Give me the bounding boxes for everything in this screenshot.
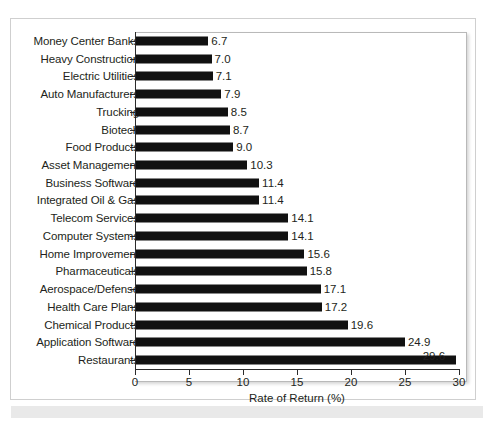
bar-row: Chemical Products19.6 <box>11 316 477 334</box>
bar <box>136 338 405 347</box>
category-label: Health Care Plans <box>47 301 139 313</box>
category-label: Computer Systems <box>43 230 139 242</box>
bar-value-label: 6.7 <box>211 35 227 47</box>
bar-value-label: 10.3 <box>250 159 272 171</box>
category-label: Asset Management <box>42 159 139 171</box>
bar-value-label: 11.4 <box>262 177 284 189</box>
bar <box>136 36 208 45</box>
bar-value-label: 29.6 <box>423 350 445 362</box>
bar-row: Trucking8.5 <box>11 103 477 121</box>
bar-row: Asset Management10.3 <box>11 156 477 174</box>
bar-value-label: 15.6 <box>307 248 329 260</box>
category-label: Biotech <box>101 124 139 136</box>
category-label: Home Improvement <box>40 248 139 260</box>
x-axis-tick <box>459 370 460 375</box>
bar-chart: Money Center Banks6.7Heavy Construction7… <box>11 19 477 401</box>
bar-value-label: 7.1 <box>216 70 232 82</box>
bar-row: Restaurants29.6 <box>11 351 477 369</box>
bar <box>136 196 259 205</box>
bar-row: Aerospace/Defense17.1 <box>11 280 477 298</box>
x-axis-tick <box>135 370 136 375</box>
x-axis-tick-label: 25 <box>399 376 412 388</box>
x-axis-tick <box>243 370 244 375</box>
bar-row: Home Improvement15.6 <box>11 245 477 263</box>
x-axis-tick <box>351 370 352 375</box>
category-label: Money Center Banks <box>33 35 139 47</box>
bar-value-label: 24.9 <box>408 336 430 348</box>
bar <box>136 90 221 99</box>
category-label: Trucking <box>96 106 139 118</box>
x-axis-tick-label: 5 <box>186 376 192 388</box>
x-axis-tick-label: 20 <box>345 376 358 388</box>
bar-row: Business Software11.4 <box>11 174 477 192</box>
bar-row: Health Care Plans17.2 <box>11 298 477 316</box>
bar <box>136 249 304 258</box>
x-axis-tick-label: 10 <box>237 376 250 388</box>
bar-value-label: 14.1 <box>291 230 313 242</box>
category-label: Food Products <box>66 141 140 153</box>
bar-row: Integrated Oil & Gas11.4 <box>11 192 477 210</box>
category-label: Telecom Services <box>50 212 139 224</box>
bar-row: Telecom Services14.1 <box>11 209 477 227</box>
bar-value-label: 14.1 <box>291 212 313 224</box>
bar <box>136 320 348 329</box>
x-axis-tick-label: 15 <box>291 376 304 388</box>
bar <box>136 267 307 276</box>
bar <box>136 214 288 223</box>
bar <box>136 302 322 311</box>
bar-row: Auto Manufacturers7.9 <box>11 85 477 103</box>
bar-value-label: 11.4 <box>262 194 284 206</box>
bar-row: Computer Systems14.1 <box>11 227 477 245</box>
category-label: Electric Utilities <box>63 70 139 82</box>
x-axis-tick-label: 30 <box>453 376 466 388</box>
bar-value-label: 7.9 <box>224 88 240 100</box>
bar-value-label: 17.2 <box>325 301 347 313</box>
category-label: Heavy Construction <box>40 53 139 65</box>
category-label: Application Software <box>36 336 139 348</box>
bar-row: Application Software24.9 <box>11 334 477 352</box>
figure-container: Money Center Banks6.7Heavy Construction7… <box>10 18 476 400</box>
bar <box>136 356 456 365</box>
bar-value-label: 19.6 <box>351 319 373 331</box>
bar <box>136 54 212 63</box>
category-label: Chemical Products <box>44 319 139 331</box>
bar <box>136 161 247 170</box>
bar-row: Electric Utilities7.1 <box>11 67 477 85</box>
category-label: Pharmaceuticals <box>55 265 139 277</box>
x-axis-tick <box>405 370 406 375</box>
bar <box>136 125 230 134</box>
x-axis-tick <box>189 370 190 375</box>
bar-value-label: 7.0 <box>215 53 231 65</box>
category-label: Restaurants <box>78 354 139 366</box>
bar-value-label: 17.1 <box>324 283 346 295</box>
bar-row: Food Products9.0 <box>11 138 477 156</box>
bar-value-label: 8.7 <box>233 124 249 136</box>
bar <box>136 231 288 240</box>
bar-value-label: 15.8 <box>310 265 332 277</box>
x-axis-tick-label: 0 <box>132 376 138 388</box>
category-label: Auto Manufacturers <box>40 88 139 100</box>
category-label: Integrated Oil & Gas <box>37 194 139 206</box>
bar <box>136 72 213 81</box>
bar <box>136 285 321 294</box>
bar <box>136 178 259 187</box>
bar <box>136 107 228 116</box>
x-axis-tick <box>297 370 298 375</box>
category-label: Aerospace/Defense <box>40 283 139 295</box>
bar <box>136 143 233 152</box>
bar-row: Pharmaceuticals15.8 <box>11 263 477 281</box>
bar-value-label: 8.5 <box>231 106 247 118</box>
bar-row: Biotech8.7 <box>11 121 477 139</box>
page-bottom-band <box>11 406 483 418</box>
x-axis-title: Rate of Return (%) <box>135 392 459 404</box>
bar-value-label: 9.0 <box>236 141 252 153</box>
bar-row: Heavy Construction7.0 <box>11 50 477 68</box>
category-label: Business Software <box>45 177 139 189</box>
bar-row: Money Center Banks6.7 <box>11 32 477 50</box>
